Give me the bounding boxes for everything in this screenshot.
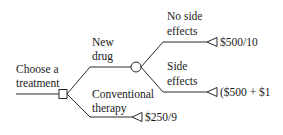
triangle-terminal-icon — [207, 38, 217, 47]
no-side-effects-label-line1: No side — [167, 10, 202, 22]
conventional-label-line1: Conventional — [92, 88, 154, 100]
triangle-terminal-icon — [207, 88, 217, 97]
payoff-conventional: $250/9 — [145, 111, 177, 123]
decision-square-icon — [59, 90, 67, 99]
decision-tree-diagram: Choose a treatment New drug No side effe… — [0, 0, 283, 135]
chance-circle-icon — [131, 62, 141, 72]
conventional-label-line2: therapy — [92, 102, 127, 115]
side-effects-label-line1: Side — [167, 60, 187, 72]
new-drug-label-line1: New — [92, 36, 114, 48]
triangle-terminal-icon — [132, 113, 142, 122]
root-label-line1: Choose a — [16, 63, 58, 75]
root-label-line2: treatment — [16, 77, 60, 89]
new-drug-label-line2: drug — [92, 50, 113, 63]
payoff-no-side-effects: $500/10 — [220, 36, 258, 48]
no-side-effects-label-line2: effects — [167, 25, 198, 37]
payoff-side-effects: ($500 + $1 — [220, 86, 271, 99]
side-effects-label-line2: effects — [167, 75, 198, 87]
